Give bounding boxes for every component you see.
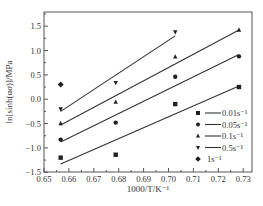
legend-label: 0.05s⁻¹ (222, 120, 248, 130)
square-marker (173, 102, 177, 106)
triangle-up-marker (173, 54, 177, 58)
circle-marker (173, 75, 177, 79)
x-tick-label: 0.70 (161, 174, 176, 184)
legend-label: 0.5s⁻¹ (222, 143, 243, 153)
circle-marker (237, 54, 241, 58)
diamond-marker (58, 82, 64, 88)
y-tick-label: 1.0 (30, 46, 41, 56)
x-tick-label: 0.67 (86, 174, 101, 184)
x-axis-ticks: 0.650.660.670.680.690.700.710.720.73 (37, 168, 251, 184)
legend-label: 0.1s⁻¹ (222, 131, 243, 141)
x-axis-label: 1000/T/K⁻¹ (127, 184, 170, 194)
circle-marker (196, 123, 200, 127)
fit-lines (61, 30, 239, 164)
circle-marker (58, 137, 62, 141)
triangle-down-marker (196, 146, 200, 150)
y-tick-label: −0.5 (26, 119, 41, 129)
triangle-down-marker (173, 30, 177, 34)
triangle-up-marker (196, 134, 200, 138)
triangle-up-marker (237, 27, 241, 31)
legend: 0.01s⁻¹0.05s⁻¹0.1s⁻¹0.5s⁻¹1s⁻¹ (195, 108, 247, 164)
square-marker (196, 111, 200, 115)
x-tick-label: 0.69 (136, 174, 151, 184)
square-marker (58, 155, 62, 159)
x-tick-label: 0.72 (211, 174, 226, 184)
y-tick-label: 0.0 (30, 94, 41, 104)
circle-marker (114, 120, 118, 124)
legend-label: 0.01s⁻¹ (222, 108, 248, 118)
triangle-up-marker (58, 121, 62, 125)
data-markers (58, 27, 241, 159)
x-tick-label: 0.66 (61, 174, 76, 184)
triangle-up-marker (114, 99, 118, 103)
y-tick-label: −1.0 (26, 143, 41, 153)
fit-line (61, 30, 239, 125)
y-axis-ticks: −1.5−1.0−0.50.00.51.01.5 (26, 14, 48, 177)
arrhenius-plot: 0.650.660.670.680.690.700.710.720.73 −1.… (0, 0, 263, 206)
triangle-down-marker (114, 81, 118, 85)
y-tick-label: 0.5 (30, 70, 41, 80)
x-tick-label: 0.73 (236, 174, 251, 184)
y-axis-label: ln[sinh(ασ)]/MPa (4, 60, 14, 123)
x-tick-label: 0.68 (111, 174, 126, 184)
square-marker (114, 153, 118, 157)
square-marker (237, 85, 241, 89)
y-tick-label: −1.5 (26, 167, 41, 177)
legend-label: 1s⁻¹ (207, 154, 222, 164)
x-tick-label: 0.71 (186, 174, 201, 184)
diamond-marker (195, 156, 201, 162)
y-tick-label: 1.5 (30, 21, 41, 31)
